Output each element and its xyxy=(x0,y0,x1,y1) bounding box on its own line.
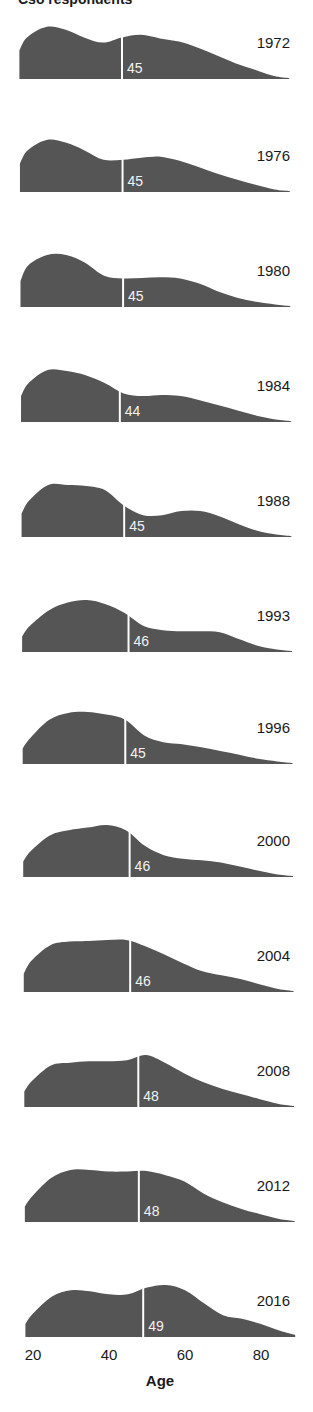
year-label: 2016 xyxy=(257,1292,290,1309)
panel-1996: 451996 xyxy=(23,708,293,765)
x-axis: 20406080Age xyxy=(25,1346,270,1389)
year-label: 1993 xyxy=(257,607,290,624)
year-label: 1976 xyxy=(257,147,290,164)
panel-2016: 492016 xyxy=(25,1281,295,1338)
density-area xyxy=(21,369,291,422)
median-label: 45 xyxy=(129,518,145,534)
age-distribution-chart: Cso respondents 451972451976451980441984… xyxy=(0,0,313,1412)
panel-1993: 461993 xyxy=(22,596,292,653)
median-label: 46 xyxy=(135,858,151,874)
density-area xyxy=(22,600,292,652)
year-label: 2012 xyxy=(257,1177,290,1194)
density-area xyxy=(19,27,289,79)
panel-1980: 451980 xyxy=(20,251,290,308)
median-label: 46 xyxy=(135,973,151,989)
median-label: 44 xyxy=(125,403,141,419)
x-tick-label: 60 xyxy=(177,1346,194,1363)
density-area xyxy=(22,484,292,537)
x-tick-label: 80 xyxy=(253,1346,270,1363)
chart-title-partial: Cso respondents xyxy=(18,0,133,7)
density-area xyxy=(23,712,293,764)
median-label: 46 xyxy=(134,633,150,649)
year-label: 1972 xyxy=(257,34,290,51)
year-label: 1996 xyxy=(257,719,290,736)
year-label: 1984 xyxy=(257,377,290,394)
density-area xyxy=(20,254,290,307)
density-area xyxy=(24,939,294,992)
density-area xyxy=(20,140,290,192)
panel-2004: 462004 xyxy=(24,936,294,993)
year-label: 2004 xyxy=(257,947,290,964)
density-area xyxy=(25,1169,295,1222)
panel-1972: 451972 xyxy=(19,23,290,80)
density-area xyxy=(23,825,293,877)
panel-1984: 441984 xyxy=(21,366,291,423)
x-axis-title: Age xyxy=(146,1372,174,1389)
year-label: 1980 xyxy=(257,262,290,279)
panel-2012: 482012 xyxy=(25,1166,295,1223)
density-area xyxy=(24,1055,294,1107)
median-label: 45 xyxy=(128,173,144,189)
year-label: 1988 xyxy=(257,492,290,509)
median-label: 48 xyxy=(143,1088,159,1104)
median-label: 45 xyxy=(127,60,143,76)
median-label: 45 xyxy=(128,288,144,304)
year-label: 2008 xyxy=(257,1062,290,1079)
panel-1988: 451988 xyxy=(22,481,292,538)
x-tick-label: 20 xyxy=(25,1346,42,1363)
year-label: 2000 xyxy=(257,832,290,849)
x-tick-label: 40 xyxy=(101,1346,118,1363)
panel-1976: 451976 xyxy=(20,136,290,193)
panel-2008: 482008 xyxy=(24,1051,294,1108)
median-label: 48 xyxy=(144,1203,160,1219)
panel-2000: 462000 xyxy=(23,821,293,878)
median-label: 45 xyxy=(130,745,146,761)
median-label: 49 xyxy=(148,1318,164,1334)
small-multiples: 4519724519764519804419844519884619934519… xyxy=(19,23,295,1338)
